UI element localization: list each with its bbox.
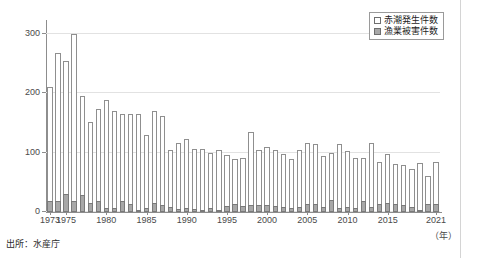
bar-segment-fishery-damage	[152, 203, 157, 212]
bar-segment-fishery-damage	[353, 208, 358, 212]
bar-segment-fishery-damage	[80, 195, 85, 212]
bar-segment-fishery-damage	[216, 210, 221, 212]
x-axis-tick-label: 1985	[136, 216, 156, 225]
bar-segment-fishery-damage	[160, 205, 165, 212]
bar-group	[433, 34, 438, 212]
x-axis-tick-mark	[66, 212, 67, 215]
bar-segment-red-tide	[55, 53, 60, 212]
bar-group	[393, 34, 398, 212]
bar-segment-fishery-damage	[385, 203, 390, 212]
plot-area: 0100200300 19731975198019851990199520002…	[0, 0, 479, 258]
x-axis-unit-label: （年）	[430, 232, 457, 241]
bar-group	[216, 34, 221, 212]
bar-segment-red-tide	[353, 158, 358, 212]
bar-segment-fishery-damage	[55, 201, 60, 212]
x-axis-tick-label: 2000	[257, 216, 277, 225]
bar-segment-red-tide	[305, 143, 310, 212]
bar-group	[353, 34, 358, 212]
bar-segment-fishery-damage	[297, 207, 302, 212]
bar-segment-fishery-damage	[232, 204, 237, 212]
bar-group	[168, 34, 173, 212]
bar-group	[337, 34, 342, 212]
bar-group	[200, 34, 205, 212]
bar-group	[232, 34, 237, 212]
bar-group	[289, 34, 294, 212]
bar-segment-fishery-damage	[208, 208, 213, 212]
bar-group	[377, 34, 382, 212]
x-axis-tick-label: 1990	[177, 216, 197, 225]
bar-group	[264, 34, 269, 212]
bar-group	[321, 34, 326, 212]
bar-segment-red-tide	[417, 163, 422, 212]
y-axis-tick-label: 100	[25, 147, 40, 156]
bar-group	[71, 34, 76, 212]
bar-group	[144, 34, 149, 212]
x-axis-tick-mark	[147, 212, 148, 215]
bar-segment-red-tide	[152, 111, 157, 212]
bars-layer	[46, 34, 440, 212]
bar-group	[345, 34, 350, 212]
bar-segment-fishery-damage	[136, 210, 141, 212]
source-note: 出所：水産庁	[6, 240, 60, 249]
legend-item-red-tide: 赤潮発生件数	[374, 16, 438, 25]
bar-segment-red-tide	[321, 156, 326, 212]
x-axis-tick-mark	[436, 212, 437, 215]
legend-item-fishery-damage: 漁業被害件数	[374, 27, 438, 36]
bar-segment-red-tide	[136, 114, 141, 212]
bar-segment-red-tide	[256, 150, 261, 212]
x-axis-tick-mark	[267, 212, 268, 215]
bar-segment-red-tide	[281, 154, 286, 212]
bar-group	[136, 34, 141, 212]
bar-segment-fishery-damage	[313, 204, 318, 212]
x-axis-tick-label: 1975	[56, 216, 76, 225]
bar-group	[160, 34, 165, 212]
bar-group	[401, 34, 406, 212]
chart-figure: 0100200300 19731975198019851990199520002…	[0, 0, 479, 258]
bar-segment-fishery-damage	[120, 201, 125, 212]
x-axis-tick-label: 2005	[297, 216, 317, 225]
legend-item-label: 赤潮発生件数	[384, 16, 438, 25]
bar-segment-fishery-damage	[176, 209, 181, 212]
bar-segment-fishery-damage	[128, 204, 133, 212]
bar-segment-red-tide	[273, 150, 278, 212]
bar-segment-red-tide	[264, 147, 269, 212]
bar-segment-red-tide	[313, 144, 318, 212]
x-axis-tick-label: 2015	[378, 216, 398, 225]
bar-segment-fishery-damage	[289, 208, 294, 212]
bar-segment-fishery-damage	[337, 208, 342, 212]
x-axis-tick-label: 2021	[426, 216, 446, 225]
bar-segment-fishery-damage	[168, 207, 173, 212]
bar-group	[120, 34, 125, 212]
bar-group	[104, 34, 109, 212]
bar-segment-fishery-damage	[433, 204, 438, 212]
bar-segment-red-tide	[128, 114, 133, 212]
bar-segment-fishery-damage	[63, 194, 68, 212]
bar-group	[256, 34, 261, 212]
bar-group	[88, 34, 93, 212]
bar-group	[305, 34, 310, 212]
bar-segment-fishery-damage	[377, 204, 382, 212]
x-axis-tick-label: 1995	[217, 216, 237, 225]
bar-segment-red-tide	[63, 61, 68, 212]
bar-segment-red-tide	[168, 150, 173, 212]
bar-segment-fishery-damage	[256, 205, 261, 212]
bar-group	[63, 34, 68, 212]
bar-group	[385, 34, 390, 212]
bar-segment-red-tide	[369, 143, 374, 212]
bar-group	[417, 34, 422, 212]
x-axis-tick-mark	[50, 212, 51, 215]
legend-item-label: 漁業被害件数	[384, 27, 438, 36]
bar-group	[240, 34, 245, 212]
y-axis-tick-label: 300	[25, 29, 40, 38]
bar-group	[297, 34, 302, 212]
bar-group	[361, 34, 366, 212]
chart-legend: 赤潮発生件数 漁業被害件数	[369, 12, 444, 40]
bar-segment-fishery-damage	[401, 205, 406, 212]
bar-segment-red-tide	[47, 87, 52, 212]
bar-group	[152, 34, 157, 212]
x-axis-tick-mark	[307, 212, 308, 215]
bar-segment-fishery-damage	[200, 210, 205, 212]
bar-segment-red-tide	[184, 139, 189, 212]
bar-segment-red-tide	[297, 150, 302, 212]
bar-group	[112, 34, 117, 212]
